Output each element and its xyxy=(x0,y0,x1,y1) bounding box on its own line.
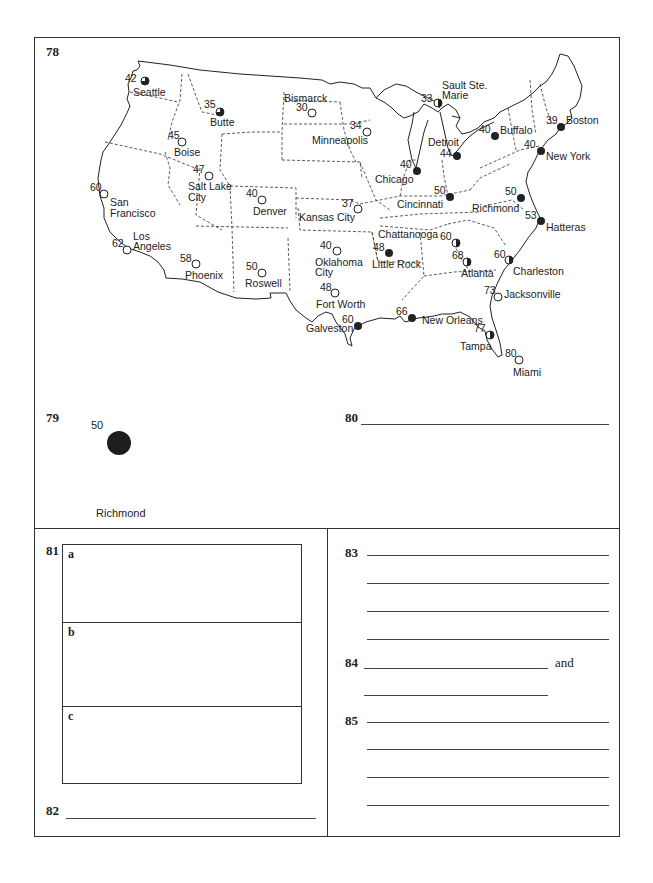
q85-answer-line-2[interactable] xyxy=(367,749,609,750)
svg-text:City: City xyxy=(315,266,334,278)
svg-text:Galveston: Galveston xyxy=(306,322,353,334)
svg-text:Atlanta: Atlanta xyxy=(461,267,494,279)
section-divider-vertical xyxy=(327,528,328,837)
question-85-number: 85 xyxy=(345,713,358,729)
svg-text:66: 66 xyxy=(396,305,408,317)
q81-part-a-label: a xyxy=(68,547,74,562)
q81-part-b-label: b xyxy=(68,625,75,640)
svg-text:47: 47 xyxy=(193,163,205,175)
svg-text:53: 53 xyxy=(525,209,537,221)
svg-text:62: 62 xyxy=(112,237,124,249)
svg-text:Phoenix: Phoenix xyxy=(185,269,224,281)
svg-text:Buffalo: Buffalo xyxy=(500,124,533,136)
svg-text:44: 44 xyxy=(440,147,452,159)
q83-answer-line-1[interactable] xyxy=(367,555,609,556)
svg-text:77: 77 xyxy=(474,322,486,334)
svg-text:68: 68 xyxy=(452,249,464,261)
q80-answer-line[interactable] xyxy=(361,424,609,425)
q83-answer-line-4[interactable] xyxy=(367,639,609,640)
svg-text:Butte: Butte xyxy=(210,116,235,128)
svg-text:30: 30 xyxy=(296,101,308,113)
svg-text:39: 39 xyxy=(546,114,558,126)
svg-text:40: 40 xyxy=(524,138,536,150)
svg-text:50: 50 xyxy=(246,260,258,272)
svg-text:33: 33 xyxy=(421,92,433,104)
svg-text:60: 60 xyxy=(90,181,102,193)
q85-answer-line-3[interactable] xyxy=(367,777,609,778)
svg-text:Hatteras: Hatteras xyxy=(546,221,586,233)
q84-answer-line-2[interactable] xyxy=(364,695,548,696)
svg-text:45: 45 xyxy=(168,129,180,141)
q84-answer-line-1[interactable] xyxy=(364,668,548,669)
q81-part-c-box[interactable]: c xyxy=(63,706,301,783)
svg-text:City: City xyxy=(188,191,207,203)
q81-answer-box: a b c xyxy=(62,544,302,784)
q83-answer-line-3[interactable] xyxy=(367,611,609,612)
svg-text:73: 73 xyxy=(484,284,496,296)
question-81-number: 81 xyxy=(46,543,59,559)
svg-text:Boston: Boston xyxy=(566,114,599,126)
us-weather-map: 42 Seattle 35 Butte Bismarck 30 45 Boise… xyxy=(0,0,653,400)
q82-answer-line[interactable] xyxy=(66,818,316,819)
question-82-number: 82 xyxy=(46,803,59,819)
q79-station-city: Richmond xyxy=(96,507,146,519)
q79-station-symbol-overcast xyxy=(107,431,131,455)
svg-text:Jacksonville: Jacksonville xyxy=(504,288,561,300)
svg-text:42: 42 xyxy=(125,72,137,84)
svg-text:50: 50 xyxy=(505,185,517,197)
svg-text:40: 40 xyxy=(479,123,491,135)
svg-text:40: 40 xyxy=(320,239,332,251)
svg-text:Fort Worth: Fort Worth xyxy=(316,298,366,310)
svg-text:Minneapolis: Minneapolis xyxy=(312,134,368,146)
svg-text:35: 35 xyxy=(204,98,216,110)
q81-part-b-box[interactable]: b xyxy=(63,622,301,707)
svg-text:48: 48 xyxy=(373,241,385,253)
svg-text:40: 40 xyxy=(400,158,412,170)
svg-text:34: 34 xyxy=(350,119,362,131)
svg-text:Chattanooga: Chattanooga xyxy=(378,228,438,240)
question-80-number: 80 xyxy=(345,410,358,426)
svg-text:Little Rock: Little Rock xyxy=(372,258,422,270)
svg-text:Angeles: Angeles xyxy=(133,240,171,252)
svg-text:60: 60 xyxy=(440,230,452,242)
svg-text:Roswell: Roswell xyxy=(245,277,282,289)
svg-text:60: 60 xyxy=(494,248,506,260)
svg-text:Kansas City: Kansas City xyxy=(299,211,356,223)
q85-answer-line-1[interactable] xyxy=(367,722,609,723)
svg-text:48: 48 xyxy=(320,281,332,293)
svg-text:Tampa: Tampa xyxy=(460,340,492,352)
q84-and-connector: and xyxy=(555,655,574,671)
svg-text:58: 58 xyxy=(180,252,192,264)
svg-text:Denver: Denver xyxy=(253,205,287,217)
svg-text:Cincinnati: Cincinnati xyxy=(397,198,443,210)
q79-station-temperature: 50 xyxy=(91,419,103,431)
svg-text:Boise: Boise xyxy=(174,146,200,158)
q83-answer-line-2[interactable] xyxy=(367,583,609,584)
svg-text:Francisco: Francisco xyxy=(110,207,156,219)
question-79-number: 79 xyxy=(46,410,59,426)
svg-text:Charleston: Charleston xyxy=(513,265,564,277)
svg-text:80: 80 xyxy=(505,347,517,359)
svg-text:Marie: Marie xyxy=(442,89,468,101)
svg-text:37: 37 xyxy=(342,197,354,209)
question-84-number: 84 xyxy=(345,655,358,671)
station-markers: 42 Seattle 35 Butte Bismarck 30 45 Boise… xyxy=(90,72,599,378)
q81-part-c-label: c xyxy=(68,709,73,724)
svg-text:Chicago: Chicago xyxy=(375,173,414,185)
q81-part-a-box[interactable]: a xyxy=(63,545,301,623)
svg-text:40: 40 xyxy=(246,187,258,199)
q85-answer-line-4[interactable] xyxy=(367,805,609,806)
svg-text:New York: New York xyxy=(546,150,591,162)
svg-text:Miami: Miami xyxy=(513,366,541,378)
svg-text:Richmond: Richmond xyxy=(472,202,519,214)
svg-text:Seattle: Seattle xyxy=(133,86,166,98)
svg-text:50: 50 xyxy=(434,184,446,196)
question-83-number: 83 xyxy=(345,545,358,561)
